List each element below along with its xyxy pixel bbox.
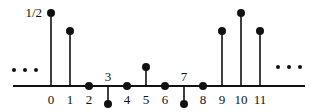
stem-dot [104, 100, 112, 108]
stem-dot [66, 27, 74, 35]
stems-group: 01234567891011 [47, 9, 266, 108]
stem-sample-7: 7 [180, 69, 188, 108]
stem-dot [218, 27, 226, 35]
stem-dot [85, 82, 93, 90]
sample-index-label: 10 [235, 92, 248, 107]
ellipsis-left-icon [12, 68, 38, 72]
sample-index-label: 0 [48, 92, 55, 107]
stem-dot [142, 63, 150, 71]
stem-sample-8: 8 [199, 82, 207, 107]
sample-index-label: 9 [219, 92, 226, 107]
stem-sample-4: 4 [123, 82, 131, 107]
sample-index-label: 6 [162, 92, 169, 107]
stem-dot [161, 82, 169, 90]
stem-plot: 1/2 01234567891011 [0, 0, 315, 112]
stem-sample-3: 3 [104, 69, 112, 108]
stem-dot [199, 82, 207, 90]
stem-dot [180, 100, 188, 108]
stem-dot [256, 27, 264, 35]
stem-sample-9: 9 [218, 27, 226, 107]
sample-index-label: 4 [124, 92, 131, 107]
sample-index-label: 11 [254, 92, 267, 107]
sample-index-label: 8 [200, 92, 207, 107]
stem-dot [123, 82, 131, 90]
sample-index-label: 2 [86, 92, 93, 107]
sample-index-label: 1 [67, 92, 74, 107]
stem-sample-10: 10 [235, 9, 248, 107]
stem-dot [237, 9, 245, 17]
stem-sample-6: 6 [161, 82, 169, 107]
sample-index-label: 7 [181, 69, 188, 84]
stem-sample-11: 11 [254, 27, 267, 107]
stem-dot [47, 9, 55, 17]
stem-sample-0: 0 [47, 9, 55, 107]
sample-index-label: 3 [105, 69, 112, 84]
stem-sample-2: 2 [85, 82, 93, 107]
sample-index-label: 5 [143, 92, 150, 107]
ellipsis-right-icon [276, 65, 302, 69]
peak-value-label: 1/2 [25, 5, 42, 20]
stem-sample-1: 1 [66, 27, 74, 107]
